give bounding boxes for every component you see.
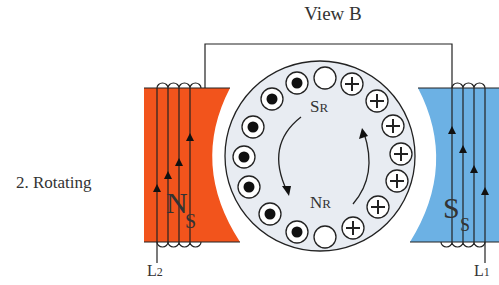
conductor-dot-icon xyxy=(259,203,281,225)
conductor-dot-icon xyxy=(286,72,308,94)
conductor-plus-icon xyxy=(342,217,364,239)
rotor-north-label: NR xyxy=(310,193,331,212)
lead-l2-label: L2 xyxy=(147,262,163,279)
rotor-south-label: SR xyxy=(310,97,328,116)
conductor-empty xyxy=(314,226,336,248)
conductor-empty xyxy=(314,67,336,89)
conductor-plus-icon xyxy=(390,143,412,165)
conductor-dot-icon xyxy=(238,176,260,198)
south-pole-sub: S xyxy=(460,215,470,235)
lead-l1-label: L1 xyxy=(474,262,490,279)
conductor-plus-icon xyxy=(382,115,404,137)
south-pole-label: S xyxy=(443,191,460,224)
conductor-dot-icon xyxy=(233,146,255,168)
conductor-dot-icon xyxy=(261,88,283,110)
conductor-plus-icon xyxy=(366,90,388,112)
conductor-dot-icon xyxy=(286,221,308,243)
conductor-plus-icon xyxy=(367,196,389,218)
conductor-dot-icon xyxy=(242,116,264,138)
north-pole-sub: S xyxy=(185,210,196,232)
view-title: View B xyxy=(304,3,361,24)
motor-diagram: View B 2. Rotating N S xyxy=(0,0,499,285)
rotating-label: 2. Rotating xyxy=(16,173,92,192)
conductor-plus-icon xyxy=(341,73,363,95)
conductor-plus-icon xyxy=(386,170,408,192)
